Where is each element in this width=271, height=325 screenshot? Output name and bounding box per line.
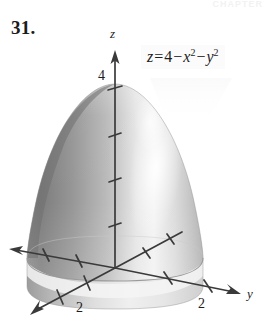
y-axis-label: y	[247, 286, 253, 302]
paraboloid-plot	[0, 0, 271, 325]
z-axis-label: z	[110, 26, 115, 42]
equation-glow	[150, 78, 232, 126]
figure-container: CHAPTER 31. z=4−x2−y2	[0, 0, 271, 325]
y-axis-tick-label-2: 2	[198, 296, 205, 312]
y-axis-arrowhead	[226, 284, 241, 294]
x-axis-tick-label-2: 2	[76, 300, 83, 316]
z-axis-tick-label-4: 4	[98, 68, 105, 84]
